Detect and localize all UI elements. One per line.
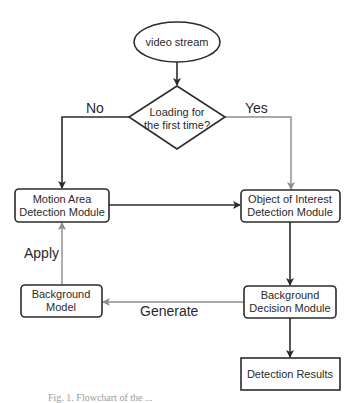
edge-decision-no-to-motion	[62, 117, 129, 188]
node-decision-label-line2: the first time?	[144, 119, 210, 131]
node-results-label: Detection Results	[247, 368, 334, 380]
node-motion-area-detection: Motion Area Detection Module	[15, 189, 109, 222]
node-bgdecision-label-line1: Background	[261, 289, 320, 301]
node-decision-first-time: Loading for the first time?	[129, 86, 225, 149]
node-video-stream: video stream	[134, 22, 220, 62]
flowchart-diagram: video stream Loading for the first time?…	[0, 0, 354, 403]
node-background-decision: Background Decision Module	[244, 286, 336, 318]
node-bgmodel-label-line2: Model	[46, 301, 76, 313]
node-video-stream-label: video stream	[146, 36, 209, 48]
figure-caption: Fig. 1. Flowchart of the ...	[48, 392, 152, 403]
node-object-label-line2: Detection Module	[247, 206, 333, 218]
node-motion-label-line2: Detection Module	[19, 206, 105, 218]
edge-label-yes: Yes	[245, 100, 268, 116]
node-bgdecision-label-line2: Decision Module	[249, 302, 330, 314]
node-decision-label-line1: Loading for	[149, 106, 204, 118]
node-bgmodel-label-line1: Background	[32, 288, 91, 300]
edge-label-no: No	[86, 100, 104, 116]
edge-label-generate: Generate	[140, 303, 199, 319]
edge-decision-yes-to-object	[225, 117, 291, 189]
node-background-model: Background Model	[21, 285, 102, 317]
edge-label-apply: Apply	[24, 245, 59, 261]
node-object-of-interest-detection: Object of Interest Detection Module	[241, 190, 340, 222]
node-object-label-line1: Object of Interest	[248, 193, 332, 205]
node-detection-results: Detection Results	[241, 358, 340, 390]
node-motion-label-line1: Motion Area	[33, 193, 93, 205]
